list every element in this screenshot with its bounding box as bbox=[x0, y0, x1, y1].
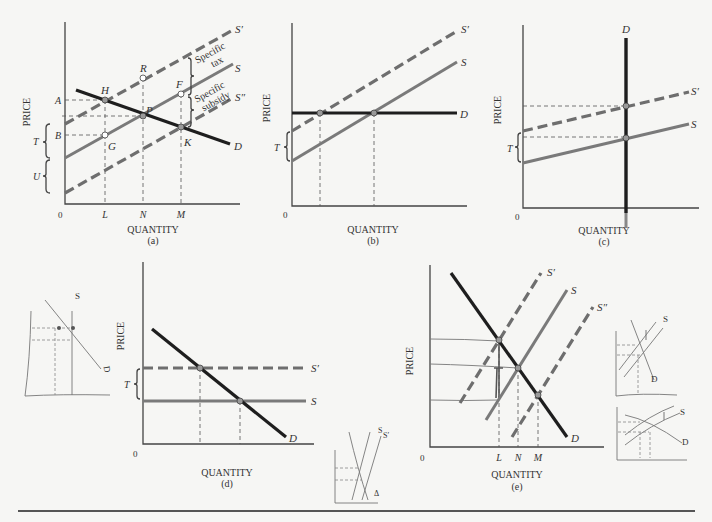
panel-a-bracket-u bbox=[43, 160, 50, 193]
panel-d-xlabel: QUANTITY bbox=[201, 467, 253, 478]
panel-e-curve-d bbox=[451, 273, 567, 437]
page-bottom-rule bbox=[18, 510, 695, 512]
panel-a-label-h: H bbox=[100, 84, 110, 96]
panel-a-point-h bbox=[102, 97, 108, 103]
panel-a-label-r: R bbox=[139, 62, 147, 74]
panel-d-ylabel: PRICE bbox=[115, 322, 126, 350]
sketch-right-bottom-curves bbox=[617, 406, 687, 460]
panel-c-label-t: T bbox=[507, 143, 514, 154]
panel-d-caption: (d) bbox=[221, 478, 233, 490]
panel-e-label-s-dprime: S″ bbox=[597, 301, 608, 313]
panel-d-origin: 0 bbox=[133, 449, 138, 459]
panel-b-label-t: T bbox=[274, 142, 281, 153]
panel-e-tick-l: L bbox=[495, 452, 502, 463]
panel-a-origin: 0 bbox=[58, 210, 63, 220]
panel-a-label-k: K bbox=[183, 136, 192, 148]
sketch-left-label-d: D bbox=[102, 365, 113, 374]
panel-a-point-k bbox=[178, 124, 184, 130]
sketch-right-top-guides bbox=[617, 345, 640, 394]
panel-c-curve-s bbox=[523, 124, 689, 163]
panel-d: PRICE 0 QUANTITY (d) S′ S D T bbox=[115, 262, 320, 490]
panel-d-point-taxed-eq bbox=[197, 365, 203, 371]
panel-b-xlabel: QUANTITY bbox=[347, 224, 399, 235]
panel-a-label-s: S bbox=[235, 62, 241, 74]
panel-a-bracket-t bbox=[43, 124, 50, 158]
panel-b-bracket-t bbox=[284, 132, 290, 161]
panel-b-label-s-prime: S′ bbox=[461, 23, 470, 35]
panel-c-curve-s-prime bbox=[523, 92, 689, 131]
panel-a-label-p: P bbox=[145, 104, 153, 116]
panel-e-point-m bbox=[535, 392, 541, 398]
panel-e-tick-m: M bbox=[533, 452, 543, 463]
panel-c-ylabel: PRICE bbox=[492, 96, 503, 124]
panel-c-label-s-prime: S′ bbox=[691, 85, 700, 97]
panel-e-label-d: D bbox=[570, 432, 579, 444]
panel-e-origin: 0 bbox=[420, 453, 425, 463]
panel-d-label-d: D bbox=[288, 432, 297, 444]
sketch-bottom: S S′ Δ bbox=[335, 426, 389, 503]
sketch-left: S D bbox=[25, 291, 113, 396]
sketch-bottom-label-s: S bbox=[378, 426, 382, 435]
panel-a-tick-n: N bbox=[139, 209, 148, 220]
panel-a-tick-m: M bbox=[176, 209, 186, 220]
panel-e-pencil-tax-arrow bbox=[494, 341, 503, 398]
panel-e-label-s: S bbox=[571, 284, 577, 296]
panel-e-caption: (e) bbox=[511, 481, 522, 493]
panel-e-point-n bbox=[515, 365, 521, 371]
sketch-left-guides bbox=[32, 328, 72, 395]
panel-b-label-s: S bbox=[461, 56, 467, 68]
panel-a-point-f bbox=[178, 91, 184, 97]
sketch-right-bottom-label-d: D bbox=[682, 437, 689, 447]
panel-b-caption: (b) bbox=[367, 235, 379, 247]
panel-b-point-taxed-eq bbox=[317, 110, 323, 116]
panel-c-bracket-t bbox=[515, 133, 521, 162]
panel-d-curve-d bbox=[152, 329, 286, 437]
panel-c-guide-lines bbox=[523, 106, 626, 137]
panel-a-label-g: G bbox=[108, 140, 116, 152]
sketch-bottom-label-d: Δ bbox=[374, 489, 379, 498]
sketch-bottom-label-s-prime: S′ bbox=[383, 431, 389, 440]
panel-c-label-s: S bbox=[691, 118, 697, 130]
panel-c: PRICE 0 QUANTITY (c) D S′ S T bbox=[492, 23, 700, 248]
panel-c-point-taxed-eq bbox=[623, 103, 629, 109]
panel-a-xlabel: QUANTITY bbox=[127, 224, 179, 235]
panel-a-label-a: A bbox=[54, 95, 62, 106]
panel-a-caption: (a) bbox=[147, 235, 158, 247]
sketch-right-top: S D bbox=[616, 314, 677, 396]
panel-c-origin: 0 bbox=[515, 212, 520, 222]
panel-e-point-l bbox=[496, 337, 502, 343]
panel-a-label-b: B bbox=[55, 130, 61, 141]
panel-a-label-u: U bbox=[33, 171, 41, 182]
panel-c-caption: (c) bbox=[598, 236, 609, 248]
panel-d-label-s-prime: S′ bbox=[311, 362, 320, 374]
panel-a-label-s-dprime: S″ bbox=[235, 91, 246, 103]
panel-d-point-eq bbox=[237, 398, 243, 404]
panel-d-label-t: T bbox=[124, 379, 131, 390]
panel-a-tick-l: L bbox=[101, 209, 108, 220]
panel-c-label-d: D bbox=[621, 23, 630, 35]
sketch-right-bottom-guides bbox=[618, 422, 650, 458]
sketch-right-bottom-label-s: S bbox=[680, 407, 685, 417]
panel-d-axes bbox=[143, 262, 314, 444]
panel-a-label-t: T bbox=[33, 136, 40, 147]
panel-e-tick-n: N bbox=[514, 452, 523, 463]
panel-b-label-d: D bbox=[459, 108, 468, 120]
sketch-left-dot-2 bbox=[71, 326, 75, 330]
panel-a-ylabel: PRICE bbox=[21, 98, 32, 126]
panel-e-label-s-prime: S′ bbox=[547, 266, 556, 278]
panel-b-point-eq bbox=[371, 110, 377, 116]
panel-c-xlabel: QUANTITY bbox=[578, 225, 630, 236]
panel-a-label-d: D bbox=[233, 140, 242, 152]
panel-d-label-s: S bbox=[311, 395, 317, 407]
panel-b-ylabel: PRICE bbox=[261, 94, 272, 122]
panel-a-label-f: F bbox=[175, 78, 183, 90]
panel-e-ylabel: PRICE bbox=[404, 347, 415, 375]
sketch-right-top-label-d: D bbox=[651, 374, 658, 384]
panel-a-label-s-prime: S′ bbox=[235, 23, 244, 35]
panel-a-point-r bbox=[140, 75, 146, 81]
sketch-right-bottom: S D bbox=[617, 406, 689, 460]
panel-e-axes bbox=[430, 265, 604, 447]
panel-a: PRICE 0 L N M QUANTITY (a) H R P F G K S… bbox=[21, 22, 246, 247]
sketch-left-curves bbox=[25, 300, 110, 396]
panel-e: PRICE 0 L N M QUANTITY (e) S′ S S″ D bbox=[404, 265, 608, 493]
